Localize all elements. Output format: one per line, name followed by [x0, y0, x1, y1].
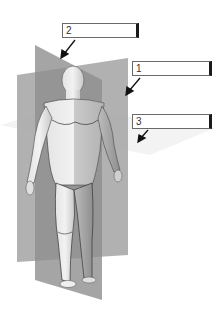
label-number-2: 2 [66, 25, 72, 36]
diagram-canvas [0, 0, 222, 311]
label-box-2[interactable]: 2 [62, 23, 139, 38]
arrow-1 [126, 78, 140, 95]
label-number-1: 1 [136, 63, 142, 74]
label-number-3: 3 [136, 116, 142, 127]
label-box-3[interactable]: 3 [132, 114, 212, 129]
label-box-1[interactable]: 1 [132, 61, 212, 76]
anatomical-planes-diagram: 2 1 3 [0, 0, 222, 311]
arrow-2 [61, 40, 75, 58]
